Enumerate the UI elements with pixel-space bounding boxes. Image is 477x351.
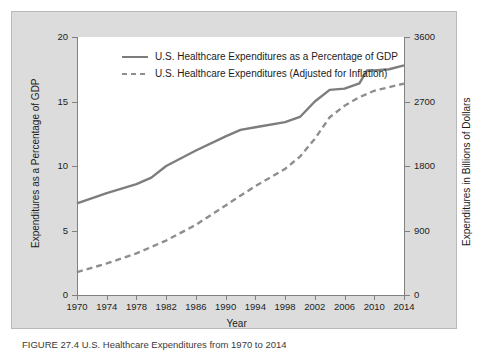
y-axis-right-tick-label: 2700	[414, 97, 450, 107]
x-axis-tick	[166, 295, 167, 300]
legend-label-gdp-percentage: U.S. Healthcare Expenditures as a Percen…	[155, 51, 398, 63]
x-axis-tick	[77, 295, 78, 300]
x-axis-tick	[226, 295, 227, 300]
legend-dashed-line-icon	[122, 69, 148, 79]
y-axis-left-tick	[72, 231, 77, 232]
y-axis-left-tick	[72, 166, 77, 167]
chart-legend: U.S. Healthcare Expenditures as a Percen…	[122, 48, 392, 82]
legend-item-inflation-adjusted: U.S. Healthcare Expenditures (Adjusted f…	[122, 65, 392, 82]
y-axis-right-tick-label: 1800	[414, 161, 450, 171]
figure-caption: FIGURE 27.4 U.S. Healthcare Expenditures…	[22, 338, 452, 351]
series-line-inflation-adjusted	[77, 84, 404, 272]
y-axis-right-tick	[405, 166, 410, 167]
y-axis-right-title: Expenditures in Billions of Dollars	[461, 98, 472, 246]
y-axis-left-tick	[72, 37, 77, 38]
x-axis-tick	[374, 295, 375, 300]
x-axis-line	[77, 295, 405, 296]
x-axis-tick	[315, 295, 316, 300]
chart-panel: 2015105036002700180090001970197419781982…	[11, 11, 457, 329]
legend-item-gdp-percentage: U.S. Healthcare Expenditures as a Percen…	[122, 48, 392, 65]
y-axis-left-tick-label: 0	[32, 290, 68, 300]
y-axis-right-tick	[405, 37, 410, 38]
x-axis-tick	[107, 295, 108, 300]
x-axis-tick	[345, 295, 346, 300]
y-axis-right-tick-label: 900	[414, 226, 450, 236]
legend-label-inflation-adjusted: U.S. Healthcare Expenditures (Adjusted f…	[155, 68, 387, 80]
x-axis-tick	[255, 295, 256, 300]
x-axis-title: Year	[227, 318, 247, 329]
legend-solid-line-icon	[122, 52, 148, 62]
y-axis-right-tick	[405, 231, 410, 232]
y-axis-left-line	[77, 37, 78, 296]
y-axis-right-tick-label: 3600	[414, 32, 450, 42]
y-axis-left-tick	[72, 102, 77, 103]
y-axis-right-tick	[405, 102, 410, 103]
x-axis-tick	[136, 295, 137, 300]
x-axis-tick	[285, 295, 286, 300]
x-axis-tick-label: 2014	[386, 302, 422, 312]
y-axis-right-tick-label: 0	[414, 290, 450, 300]
y-axis-left-tick-label: 20	[32, 32, 68, 42]
x-axis-tick	[404, 295, 405, 300]
x-axis-tick	[196, 295, 197, 300]
y-axis-right-tick	[405, 295, 410, 296]
y-axis-left-title: Expenditures as a Percentage of GDP	[30, 78, 41, 248]
series-line-gdp-percentage	[77, 65, 404, 203]
